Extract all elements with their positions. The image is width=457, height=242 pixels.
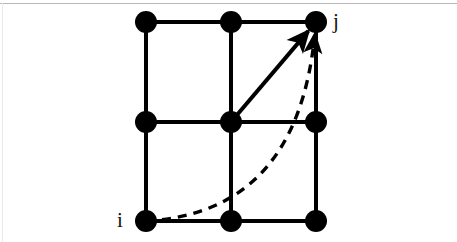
- lattice-node: [220, 11, 242, 33]
- node-label-i: i: [117, 210, 123, 231]
- lattice-node: [220, 111, 242, 133]
- lattice-node: [305, 111, 327, 133]
- lattice-node: [305, 11, 327, 33]
- direct-diagonal-arrow: [231, 31, 308, 122]
- lattice-diagram-canvas: [0, 0, 457, 242]
- lattice-node: [220, 210, 242, 232]
- figure-root: i j: [0, 0, 457, 242]
- lattice-node: [135, 111, 157, 133]
- lattice-node: [135, 210, 157, 232]
- node-label-j: j: [333, 11, 339, 32]
- lattice-node: [135, 11, 157, 33]
- lattice-node: [305, 210, 327, 232]
